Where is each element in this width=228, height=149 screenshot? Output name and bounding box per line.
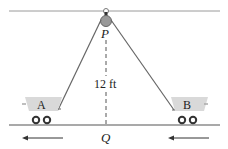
pulley-wheel-icon bbox=[101, 16, 112, 27]
ground-point-label: Q bbox=[101, 131, 110, 144]
arrow-left-icon bbox=[22, 136, 63, 141]
cart-b-label: B bbox=[183, 99, 191, 111]
rope-right bbox=[111, 20, 174, 110]
cart-a-label: A bbox=[37, 99, 46, 111]
pulley-cart-diagram bbox=[0, 0, 228, 149]
height-label: 12 ft bbox=[94, 78, 116, 90]
pulley-label: P bbox=[101, 27, 109, 40]
rope-left bbox=[58, 20, 101, 110]
arrow-left-icon bbox=[168, 136, 209, 141]
